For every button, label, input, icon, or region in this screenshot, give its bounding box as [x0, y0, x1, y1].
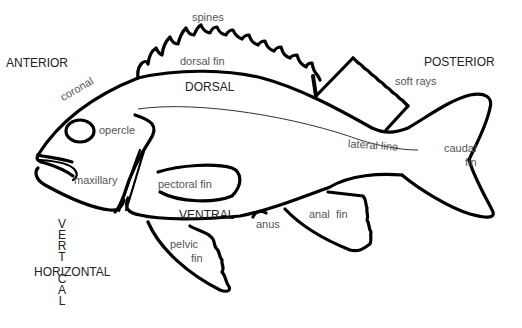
label-horizontal: HORIZONTAL [34, 266, 110, 278]
label-dorsal-fin: dorsal fin [180, 56, 225, 67]
vertical-letter: L [57, 296, 67, 307]
fish-anatomy-diagram: ANTERIOR POSTERIOR DORSAL VENTRAL HORIZO… [0, 0, 522, 328]
label-ventral: VENTRAL [179, 209, 234, 221]
label-anus: anus [256, 219, 280, 230]
vertical-letter: T [57, 252, 67, 263]
label-pectoral-fin: pectoral fin [158, 179, 212, 190]
dorsal-fin-spine-base [313, 76, 316, 96]
label-soft-rays: soft rays [395, 76, 437, 87]
label-maxillary: maxillary [74, 175, 117, 186]
label-spines: spines [192, 12, 224, 23]
label-posterior: POSTERIOR [424, 56, 495, 68]
label-opercle: opercle [99, 125, 135, 136]
label-dorsal: DORSAL [185, 81, 234, 93]
anus-outline [253, 211, 266, 217]
label-vertical: V E R T I C A L [57, 219, 67, 307]
anal-fin-outline [285, 192, 371, 251]
label-caudal-fin: fin [465, 157, 477, 168]
label-anterior: ANTERIOR [6, 57, 68, 69]
label-pelvic-fin: fin [191, 253, 203, 264]
caudal-fin-lower-outline [402, 160, 493, 217]
soft-ray-fin-rear [386, 106, 408, 130]
pelvic-fin-outline [148, 222, 230, 291]
label-caudal: caudal [444, 143, 476, 154]
label-anal-fin: anal fin [309, 209, 348, 220]
eye-outline [66, 120, 94, 142]
soft-ray-fin-outline [316, 58, 353, 96]
label-pelvic: pelvic [170, 239, 198, 250]
